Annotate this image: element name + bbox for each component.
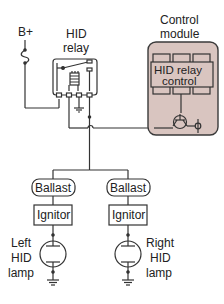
- left-lamp-label-3: lamp: [8, 266, 34, 280]
- control-module: HID relay control: [148, 42, 218, 135]
- hid-relay: [53, 59, 97, 97]
- ballast-left-label: Ballast: [35, 181, 72, 195]
- ballast-right-label: Ballast: [110, 181, 147, 195]
- right-lamp-icon: [115, 225, 141, 285]
- left-lamp-label-1: Left: [11, 236, 32, 250]
- bplus-label: B+: [18, 25, 33, 39]
- ballast-right: Ballast: [107, 179, 150, 196]
- left-lamp-icon: [40, 225, 66, 285]
- right-lamp-label-1: Right: [146, 236, 175, 250]
- ground-icon: [74, 97, 84, 112]
- ignitor-right-label: Ignitor: [112, 208, 145, 222]
- left-lamp-label-2: HID: [11, 251, 32, 265]
- relay-control-label-2: control: [162, 75, 197, 87]
- ignitor-left: Ignitor: [34, 205, 72, 225]
- relay-label-2: relay: [63, 41, 89, 55]
- ballast-left: Ballast: [32, 179, 75, 196]
- hid-circuit-diagram: B+ HID relay: [0, 0, 224, 304]
- ignitor-left-label: Ignitor: [37, 208, 70, 222]
- right-lamp-label-3: lamp: [146, 266, 172, 280]
- ignitor-right: Ignitor: [109, 205, 147, 225]
- relay-label-1: HID: [66, 27, 87, 41]
- module-label-1: Control: [160, 13, 199, 27]
- module-label-2: module: [160, 27, 200, 41]
- right-lamp-label-2: HID: [150, 251, 171, 265]
- relay-coil-icon: [70, 71, 79, 85]
